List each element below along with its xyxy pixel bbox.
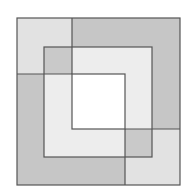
middle-overlap-bottom-right [125, 129, 152, 157]
middle-overlap-top-left [44, 47, 72, 74]
inner-square [72, 74, 125, 129]
nested-squares-diagram [0, 0, 196, 195]
